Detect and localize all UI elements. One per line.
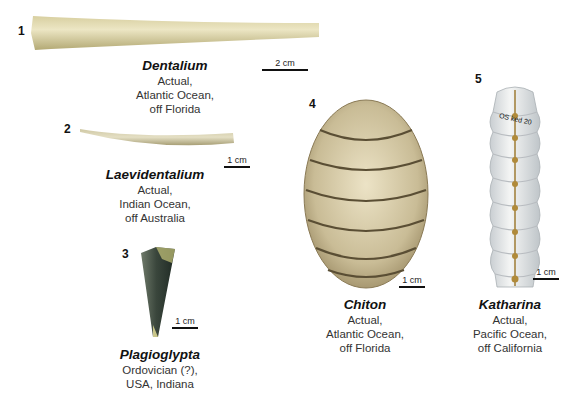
specimen-number-5: 5 bbox=[475, 72, 482, 86]
genus-name: Plagioglypta bbox=[100, 347, 220, 363]
scale-bar-4: 1 cm bbox=[399, 275, 425, 288]
caption-laevidentalium: Laevidentalium Actual, Indian Ocean, off… bbox=[95, 167, 215, 225]
specimen-number-2: 2 bbox=[64, 122, 71, 136]
genus-name: Katharina bbox=[455, 297, 565, 313]
chiton-shell-image bbox=[302, 98, 430, 290]
genus-name: Chiton bbox=[305, 297, 425, 313]
katharina-shell-image bbox=[483, 82, 547, 292]
caption-katharina: Katharina Actual, Pacific Ocean, off Cal… bbox=[455, 297, 565, 355]
laevidentalium-shell-image bbox=[78, 125, 238, 151]
genus-name: Laevidentalium bbox=[95, 167, 215, 183]
caption-chiton: Chiton Actual, Atlantic Ocean, off Flori… bbox=[305, 297, 425, 355]
scale-bar-3: 1 cm bbox=[172, 316, 198, 329]
scale-bar-1: 2 cm bbox=[262, 58, 308, 71]
genus-name: Dentalium bbox=[125, 58, 225, 74]
caption-plagioglypta: Plagioglypta Ordovician (?), USA, Indian… bbox=[100, 347, 220, 391]
specimen-number-1: 1 bbox=[18, 24, 25, 38]
scale-bar-2: 1 cm bbox=[224, 155, 250, 168]
specimen-number-3: 3 bbox=[122, 247, 129, 261]
scale-bar-5: 1 cm bbox=[533, 267, 559, 280]
caption-dentalium: Dentalium Actual, Atlantic Ocean, off Fl… bbox=[125, 58, 225, 116]
dentalium-shell-image bbox=[31, 13, 321, 53]
